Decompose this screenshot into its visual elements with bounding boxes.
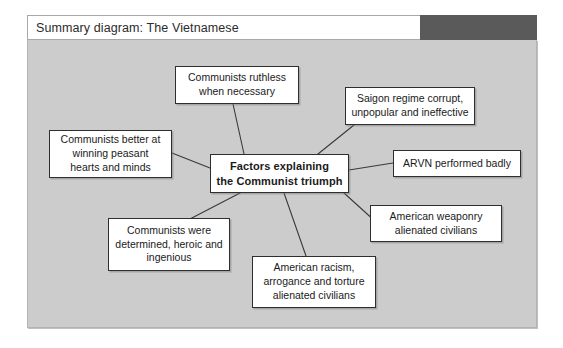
node-center-line-1: Factors explaining (216, 159, 342, 174)
node-ruthless-line-2: when necessary (188, 85, 286, 99)
title-bar-accent-block (420, 15, 537, 40)
node-arvn-performed-badly[interactable]: ARVN performed badly (393, 150, 521, 177)
node-peasant-line-2: winning peasant (61, 147, 161, 161)
connector-center-peasant (172, 153, 210, 168)
connector-center-arvn (349, 163, 393, 170)
node-peasant-line-1: Communists better at (61, 133, 161, 147)
node-racism-line-1: American racism, (264, 261, 365, 275)
page-title: Summary diagram: The Vietnamese (36, 21, 239, 35)
node-center-factors-explaining-the-communist-triumph[interactable]: Factors explaining the Communist triumph (210, 154, 349, 193)
connector-center-determined (188, 193, 240, 220)
node-peasant-line-3: hearts and minds (61, 161, 161, 175)
node-ruthless-line-1: Communists ruthless (188, 71, 286, 85)
connector-center-ruthless (233, 104, 244, 154)
node-communists-ruthless[interactable]: Communists ruthless when necessary (175, 66, 299, 104)
node-weaponry-line-1: American weaponry (390, 210, 483, 224)
node-determined-line-2: determined, heroic and (115, 238, 222, 252)
diagram-page: Summary diagram: The Vietnamese Factors … (0, 0, 563, 348)
node-saigon-line-1: Saigon regime corrupt, (351, 92, 468, 106)
node-american-weaponry-alienated-civilians[interactable]: American weaponry alienated civilians (370, 205, 502, 242)
node-saigon-line-2: unpopular and ineffective (351, 106, 468, 120)
node-saigon-regime-corrupt[interactable]: Saigon regime corrupt, unpopular and ine… (345, 87, 475, 125)
diagram-canvas: Factors explaining the Communist triumph… (27, 40, 537, 328)
node-center-line-2: the Communist triumph (216, 174, 342, 189)
node-weaponry-line-2: alienated civilians (390, 224, 483, 238)
node-american-racism-arrogance-and-torture-alienated-civilians[interactable]: American racism, arrogance and torture a… (252, 256, 376, 308)
node-racism-line-3: alienated civilians (264, 289, 365, 303)
node-arvn-line-1: ARVN performed badly (403, 157, 511, 171)
connector-center-saigon (318, 125, 354, 154)
node-determined-line-1: Communists were (115, 224, 222, 238)
node-communists-were-determined-heroic-and-ingenious[interactable]: Communists were determined, heroic and i… (108, 218, 230, 271)
connector-center-racism (284, 193, 306, 256)
node-racism-line-2: arrogance and torture (264, 275, 365, 289)
node-communists-better-at-winning-peasant-hearts-and-minds[interactable]: Communists better at winning peasant hea… (49, 130, 172, 178)
node-determined-line-3: ingenious (115, 251, 222, 265)
